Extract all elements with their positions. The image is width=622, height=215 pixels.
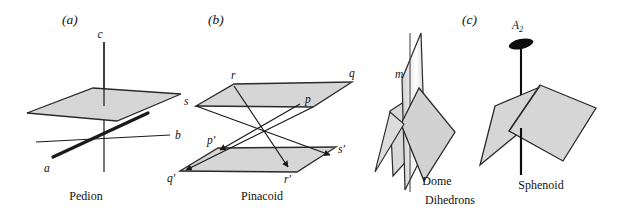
caption-sphenoid: Sphenoid — [518, 178, 563, 192]
arrow-q-to-p-prime — [220, 104, 300, 150]
axis-label-a: a — [44, 162, 50, 174]
pinacoid-upper-face — [196, 82, 352, 107]
vertex-label-r: r — [231, 69, 236, 81]
vertex-label-q-prime: q′ — [167, 172, 176, 185]
crystal-forms-figure: (a) c b a Pedion (b) r q s p p′ — [0, 0, 622, 215]
caption-pedion: Pedion — [69, 189, 102, 203]
figure-canvas: (a) c b a Pedion (b) r q s p p′ — [0, 0, 622, 215]
panel-letter-a: (a) — [62, 12, 78, 27]
vertex-label-p-prime: p′ — [206, 134, 216, 147]
vertex-label-s: s — [184, 95, 189, 107]
dome-mirror-label-m: m — [395, 68, 403, 80]
dome-form: m Dome — [375, 33, 455, 192]
panel-letter-c: (c) — [462, 12, 477, 27]
caption-dome: Dome — [422, 174, 451, 188]
vertex-label-s-prime: s′ — [338, 143, 345, 155]
caption-dihedrons: Dihedrons — [425, 193, 475, 207]
sphenoid-form: A2 Sphenoid — [480, 19, 596, 192]
axis-b-line — [36, 135, 170, 142]
panel-dihedrons: (c) m Dome — [375, 12, 596, 207]
panel-letter-b: (b) — [208, 12, 224, 27]
panel-pedion: (a) c b a Pedion — [27, 12, 181, 203]
caption-pinacoid: Pinacoid — [241, 189, 283, 203]
vertex-label-r-prime: r′ — [284, 173, 291, 185]
pinacoid-lower-face — [180, 147, 336, 172]
axis-label-c: c — [97, 28, 102, 40]
vertex-label-q: q — [349, 67, 355, 80]
vertex-label-p: p — [304, 93, 311, 106]
axis-label-b: b — [175, 129, 181, 141]
panel-pinacoid: (b) r q s p p′ q′ s′ r′ Pinacoid — [167, 12, 355, 203]
sphenoid-axis-label: A2 — [511, 19, 523, 34]
